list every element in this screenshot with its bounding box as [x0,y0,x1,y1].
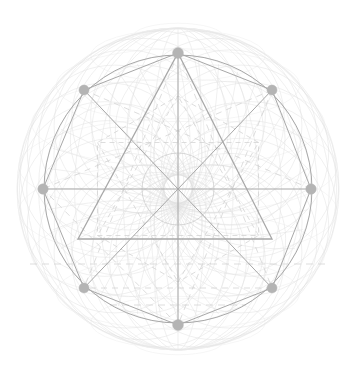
figure-canvas: Sacred Geometry Mandala Top VertexUpper … [0,0,355,378]
node-upper-right[interactable]: Upper Right Vertex [267,85,277,95]
node-lower-left[interactable]: Lower Left Vertex [79,283,89,293]
node-bottom[interactable]: Bottom Vertex [173,320,184,331]
node-upper-left[interactable]: Upper Left Vertex [79,85,89,95]
node-top[interactable]: Top Vertex [173,48,184,59]
node-lower-right[interactable]: Lower Right Vertex [267,283,277,293]
node-left[interactable]: Left Vertex [38,184,48,194]
geometry-mandala-svg: Sacred Geometry Mandala Top VertexUpper … [0,0,355,378]
node-right[interactable]: Right Vertex [306,184,316,194]
